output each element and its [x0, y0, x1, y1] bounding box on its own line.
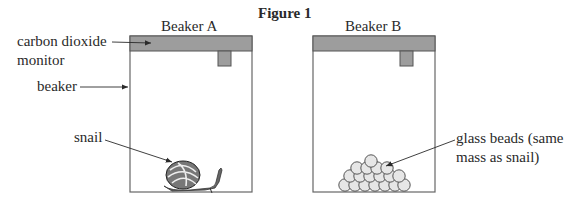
figure-title: Figure 1	[258, 5, 311, 22]
glass-bead	[393, 170, 405, 182]
beaker-a-co2-monitor	[130, 36, 252, 51]
co2-monitor-label-line1: carbon dioxide	[17, 33, 107, 50]
snail-label: snail	[74, 129, 102, 146]
beads-label-line1: glass beads (same	[456, 130, 563, 147]
beaker-b-label: Beaker B	[345, 18, 401, 35]
figure-diagram	[0, 0, 579, 202]
glass-bead	[365, 155, 377, 167]
beaker-b-co2-monitor	[313, 36, 435, 51]
beaker-a-label: Beaker A	[161, 18, 217, 35]
beads-label-line2: mass as snail)	[456, 149, 539, 166]
beaker-a-sensor-tab	[218, 51, 231, 66]
beaker-b-sensor-tab	[400, 51, 413, 66]
beaker-label: beaker	[37, 78, 77, 95]
co2-monitor-label-line2: monitor	[17, 52, 65, 69]
